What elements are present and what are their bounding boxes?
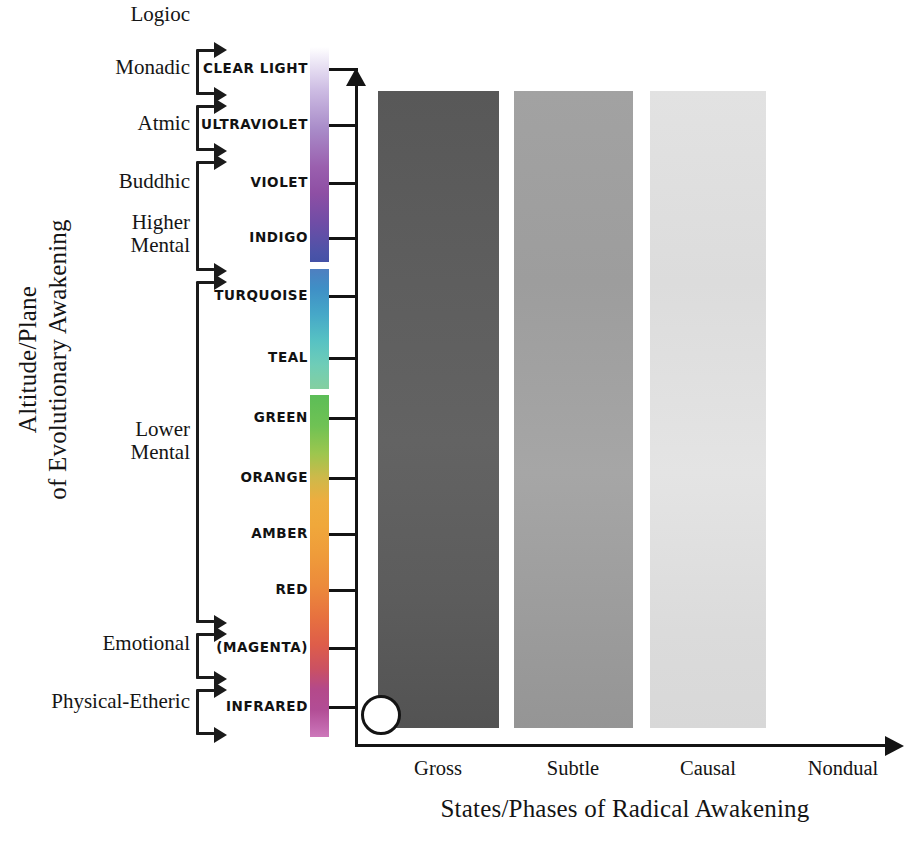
origin-circle xyxy=(361,695,401,735)
plane-label: Atmic xyxy=(138,112,191,135)
altitude-name: TEAL xyxy=(268,349,308,365)
state-label: Subtle xyxy=(503,757,643,780)
state-column xyxy=(650,91,766,728)
altitude-name-column: CLEAR LIGHTULTRAVIOLETVIOLETINDIGOTURQUO… xyxy=(186,0,308,760)
altitude-colorbar xyxy=(310,47,329,737)
plane-label: Emotional xyxy=(103,632,191,655)
plane-label-column: LogiocMonadicAtmicBuddhicHigher MentalLo… xyxy=(0,0,190,760)
altitude-name: ORANGE xyxy=(240,469,308,485)
diagram-canvas: Altitude/Plane of Evolutionary Awakening… xyxy=(0,0,915,843)
altitude-name: TURQUOISE xyxy=(214,287,308,303)
state-column xyxy=(514,91,633,728)
state-label: Gross xyxy=(368,757,508,780)
altitude-name: INFRARED xyxy=(226,698,308,714)
x-axis-title: States/Phases of Radical Awakening xyxy=(345,795,905,823)
altitude-name: VIOLET xyxy=(250,174,308,190)
altitude-name: AMBER xyxy=(251,525,308,541)
plane-label: Higher Mental xyxy=(131,211,190,257)
vertical-axis-line xyxy=(355,84,358,747)
altitude-name: (MAGENTA) xyxy=(216,639,308,655)
altitude-name: GREEN xyxy=(254,409,308,425)
horizontal-axis-arrowhead xyxy=(885,736,904,756)
colorbar-segment xyxy=(310,395,329,737)
plane-label: Buddhic xyxy=(119,170,190,193)
state-column xyxy=(378,91,499,728)
state-label: Nondual xyxy=(773,757,913,780)
plane-label: Physical-Etheric xyxy=(51,690,190,713)
horizontal-axis-line xyxy=(356,744,888,747)
colorbar-segment xyxy=(310,47,329,262)
plane-label: Lower Mental xyxy=(131,418,190,464)
plane-label: Logioc xyxy=(131,3,190,26)
altitude-name: RED xyxy=(275,581,308,597)
plane-label: Monadic xyxy=(115,56,190,79)
altitude-name: CLEAR LIGHT xyxy=(203,60,308,76)
state-label: Causal xyxy=(638,757,778,780)
vertical-axis-arrowhead xyxy=(346,68,366,86)
altitude-name: ULTRAVIOLET xyxy=(201,116,308,132)
altitude-name: INDIGO xyxy=(249,229,308,245)
colorbar-segment xyxy=(310,269,329,389)
